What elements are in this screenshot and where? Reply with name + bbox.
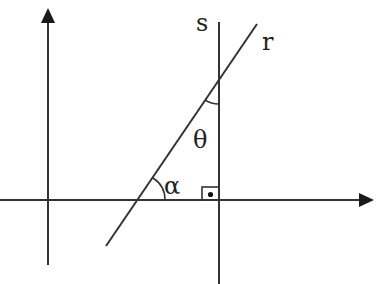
theta-arc — [205, 100, 219, 104]
line-r — [106, 24, 257, 246]
x-axis-arrow-icon — [359, 193, 374, 207]
geometry-diagram: s r α θ — [0, 0, 376, 284]
label-s: s — [196, 9, 208, 37]
y-axis-arrow-icon — [41, 8, 55, 23]
label-theta: θ — [193, 126, 207, 154]
label-r: r — [262, 28, 274, 56]
x-axis — [0, 193, 374, 207]
diagram-canvas: s r α θ — [0, 0, 376, 284]
right-angle-dot — [208, 192, 213, 197]
y-axis — [41, 8, 55, 265]
label-alpha: α — [164, 172, 180, 200]
